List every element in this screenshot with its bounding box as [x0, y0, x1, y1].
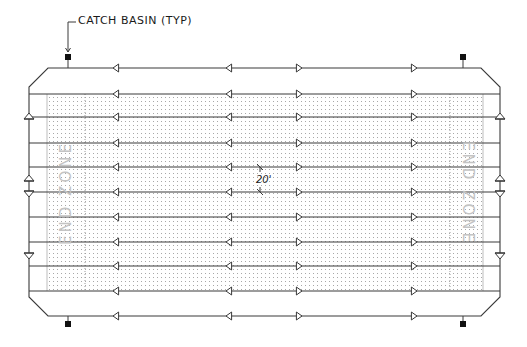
triangle-up-icon [24, 113, 34, 119]
flow-arrow-right-icon [411, 312, 417, 320]
leader-line [66, 22, 77, 52]
triangle-up-icon [495, 113, 505, 119]
catch-basin-icon [460, 321, 466, 327]
catch-basin-icon [65, 321, 71, 327]
flow-arrow-left-icon [113, 312, 119, 320]
triangle-up-icon [24, 175, 34, 181]
catch-basin-icon [460, 54, 466, 60]
flow-arrow-right-icon [296, 312, 302, 320]
end-zone-left-label: END ZONE [57, 141, 75, 245]
flow-arrow-left-icon [226, 64, 232, 72]
triangle-up-icon [495, 175, 505, 181]
leader [68, 22, 76, 52]
flow-arrow-left-icon [226, 312, 232, 320]
catch-basin-icon [65, 54, 71, 60]
catch-basin-label: CATCH BASIN (TYP) [78, 14, 192, 27]
triangle-down-icon [495, 191, 505, 197]
triangle-down-icon [24, 191, 34, 197]
flow-arrow-right-icon [296, 64, 302, 72]
triangle-down-icon [24, 253, 34, 259]
end-zone-right-label: END ZONE [459, 141, 477, 245]
dimension-label: 20' [256, 174, 271, 185]
flow-arrow-left-icon [113, 64, 119, 72]
triangle-down-icon [495, 253, 505, 259]
flow-arrow-right-icon [411, 64, 417, 72]
